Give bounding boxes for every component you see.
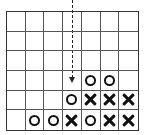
board-cell-r0-c1[interactable]: [26, 12, 45, 32]
board-cell-r1-c2[interactable]: [44, 32, 63, 52]
board-cell-r2-c2[interactable]: [44, 51, 63, 71]
board-cell-r2-c0[interactable]: [7, 51, 26, 71]
x-piece-icon: [122, 114, 135, 127]
o-piece-icon: [48, 115, 59, 126]
board-cell-r4-c6[interactable]: [119, 91, 138, 111]
game-board: [6, 11, 139, 131]
board-cell-r5-c0[interactable]: [7, 110, 26, 130]
board-cell-r5-c5[interactable]: [101, 110, 120, 130]
board-cell-r4-c5[interactable]: [101, 91, 120, 111]
o-piece-icon: [29, 115, 40, 126]
board-cell-r4-c2[interactable]: [44, 91, 63, 111]
board-cell-r3-c0[interactable]: [7, 71, 26, 91]
x-piece-icon: [122, 93, 135, 106]
board-cell-r3-c4[interactable]: [82, 71, 101, 91]
board-cell-r4-c4[interactable]: [82, 91, 101, 111]
x-piece-icon: [103, 114, 116, 127]
board-cell-r3-c6[interactable]: [119, 71, 138, 91]
x-piece-icon: [103, 93, 116, 106]
board-cell-r1-c6[interactable]: [119, 32, 138, 52]
board-cell-r0-c6[interactable]: [119, 12, 138, 32]
board-cell-r4-c0[interactable]: [7, 91, 26, 111]
board-cell-r5-c6[interactable]: [119, 110, 138, 130]
board-cell-r0-c3[interactable]: [63, 12, 82, 32]
board-cell-r3-c3[interactable]: [63, 71, 82, 91]
board-cell-r0-c2[interactable]: [44, 12, 63, 32]
board-cell-r5-c4[interactable]: [82, 110, 101, 130]
board-cell-r0-c0[interactable]: [7, 12, 26, 32]
board-cell-r1-c0[interactable]: [7, 32, 26, 52]
o-piece-icon: [85, 75, 96, 86]
o-piece-icon: [104, 75, 115, 86]
board-cell-r4-c3[interactable]: [63, 91, 82, 111]
board-cell-r1-c3[interactable]: [63, 32, 82, 52]
board-cell-r2-c6[interactable]: [119, 51, 138, 71]
o-piece-icon: [85, 115, 96, 126]
board-cell-r1-c5[interactable]: [101, 32, 120, 52]
board-cell-r5-c1[interactable]: [26, 110, 45, 130]
board-cell-r5-c2[interactable]: [44, 110, 63, 130]
board-cell-r2-c4[interactable]: [82, 51, 101, 71]
board-cell-r2-c1[interactable]: [26, 51, 45, 71]
board-cell-r1-c1[interactable]: [26, 32, 45, 52]
board-cell-r3-c1[interactable]: [26, 71, 45, 91]
board-cell-r5-c3[interactable]: [63, 110, 82, 130]
board-cell-r0-c4[interactable]: [82, 12, 101, 32]
board-cell-r2-c5[interactable]: [101, 51, 120, 71]
x-piece-icon: [84, 93, 97, 106]
board-cell-r2-c3[interactable]: [63, 51, 82, 71]
board-cell-r4-c1[interactable]: [26, 91, 45, 111]
board-cell-r0-c5[interactable]: [101, 12, 120, 32]
board-cell-r3-c5[interactable]: [101, 71, 120, 91]
board-cell-r3-c2[interactable]: [44, 71, 63, 91]
x-piece-icon: [65, 114, 78, 127]
board-cell-r1-c4[interactable]: [82, 32, 101, 52]
o-piece-icon: [66, 94, 77, 105]
